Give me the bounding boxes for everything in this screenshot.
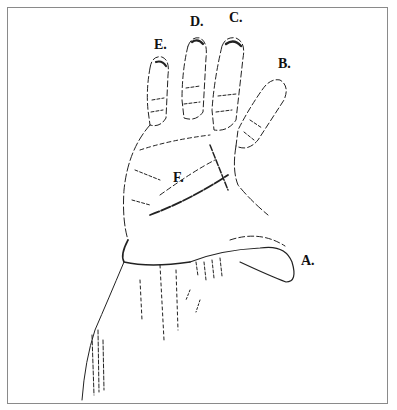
label-c: C.	[229, 10, 243, 26]
label-e: E.	[154, 37, 167, 53]
label-a: A.	[301, 253, 315, 269]
label-f: F.	[173, 170, 184, 186]
finger-d	[182, 38, 206, 119]
thumb-a	[190, 236, 294, 282]
finger-c	[212, 38, 244, 131]
label-d: D.	[190, 14, 204, 30]
finger-b	[236, 80, 286, 148]
wrist	[82, 240, 200, 400]
finger-e	[147, 57, 168, 126]
hand-sketch	[0, 0, 397, 410]
label-b: B.	[278, 56, 291, 72]
palm	[124, 125, 269, 240]
